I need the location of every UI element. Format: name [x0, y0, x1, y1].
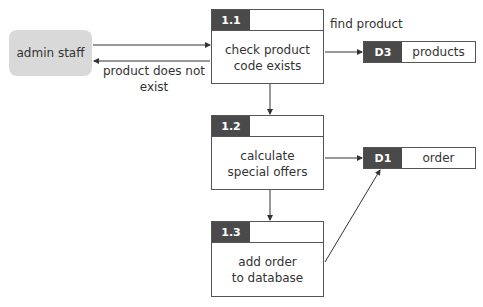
process-label-line: code exists [225, 58, 310, 74]
process-id: 1.1 [212, 10, 250, 30]
data-store-d1: D1 order [363, 147, 476, 169]
store-name: order [402, 148, 475, 168]
process-id: 1.3 [212, 222, 250, 242]
process-label-line: to database [232, 270, 304, 286]
flow-label-find-product: find product [330, 16, 403, 32]
process-label-line: add order [232, 254, 304, 270]
flow-label-line: product does not [100, 63, 208, 79]
store-id: D3 [364, 42, 402, 62]
store-name: products [402, 42, 475, 62]
entity-label: admin staff [17, 46, 85, 60]
process-1-2: 1.2 calculate special offers [211, 115, 324, 190]
flow-label-product-not-exist: product does not exist [100, 63, 208, 95]
external-entity-admin-staff: admin staff [9, 30, 92, 76]
process-label-line: special offers [228, 164, 308, 180]
flow-label-line: exist [100, 79, 208, 95]
process-label-line: check product [225, 42, 310, 58]
process-1-3: 1.3 add order to database [211, 221, 324, 297]
store-id: D1 [364, 148, 402, 168]
process-id: 1.2 [212, 116, 250, 136]
process-label-line: calculate [228, 148, 308, 164]
process-1-1: 1.1 check product code exists [211, 9, 324, 84]
data-store-d3: D3 products [363, 41, 476, 63]
